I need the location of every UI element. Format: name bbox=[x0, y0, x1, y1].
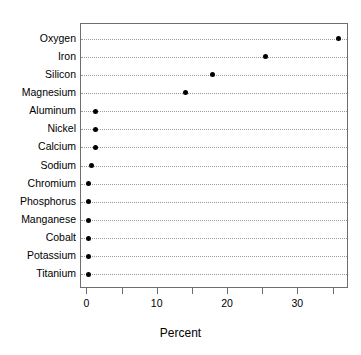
category-label: Calcium bbox=[38, 141, 76, 152]
category-label: Potassium bbox=[27, 250, 76, 261]
gridline bbox=[81, 39, 347, 40]
category-label: Phosphorus bbox=[20, 195, 76, 206]
data-point[interactable] bbox=[210, 72, 215, 77]
gridline bbox=[81, 57, 347, 58]
data-point[interactable] bbox=[183, 90, 188, 95]
x-tick-label: 10 bbox=[151, 297, 163, 309]
gridline bbox=[81, 202, 347, 203]
data-point[interactable] bbox=[86, 236, 91, 241]
x-tick-minor bbox=[122, 288, 123, 294]
gridline bbox=[81, 274, 347, 275]
x-tick-label: 0 bbox=[83, 297, 89, 309]
category-label: Magnesium bbox=[22, 86, 76, 97]
x-tick-label: 20 bbox=[221, 297, 233, 309]
x-tick-major bbox=[297, 288, 298, 294]
plot-area bbox=[80, 23, 348, 288]
gridline bbox=[81, 256, 347, 257]
x-axis: 0102030 bbox=[80, 288, 348, 328]
data-point[interactable] bbox=[263, 54, 268, 59]
category-label: Nickel bbox=[47, 123, 76, 134]
category-label: Iron bbox=[58, 50, 76, 61]
data-point[interactable] bbox=[93, 145, 98, 150]
data-point[interactable] bbox=[86, 199, 91, 204]
x-tick-minor bbox=[262, 288, 263, 294]
x-tick-label: 30 bbox=[292, 297, 304, 309]
category-label: Titanium bbox=[36, 268, 76, 279]
data-point[interactable] bbox=[86, 272, 91, 277]
category-label: Aluminum bbox=[29, 105, 76, 116]
gridline bbox=[81, 111, 347, 112]
data-point[interactable] bbox=[336, 36, 341, 41]
data-point[interactable] bbox=[93, 109, 98, 114]
x-tick-minor bbox=[192, 288, 193, 294]
x-tick-major bbox=[157, 288, 158, 294]
category-label: Chromium bbox=[28, 177, 76, 188]
gridline bbox=[81, 238, 347, 239]
data-point[interactable] bbox=[93, 127, 98, 132]
data-point[interactable] bbox=[86, 254, 91, 259]
x-axis-title: Percent bbox=[0, 326, 361, 340]
data-point[interactable] bbox=[89, 163, 94, 168]
gridline bbox=[81, 147, 347, 148]
gridline bbox=[81, 93, 347, 94]
category-label: Manganese bbox=[21, 214, 76, 225]
category-label: Sodium bbox=[40, 159, 76, 170]
x-tick-major bbox=[227, 288, 228, 294]
category-label: Silicon bbox=[45, 68, 76, 79]
category-label: Oxygen bbox=[40, 32, 76, 43]
gridline bbox=[81, 166, 347, 167]
data-point[interactable] bbox=[86, 181, 91, 186]
data-point[interactable] bbox=[86, 218, 91, 223]
plot-inner bbox=[81, 24, 347, 287]
gridline bbox=[81, 129, 347, 130]
x-tick-major bbox=[86, 288, 87, 294]
gridline bbox=[81, 220, 347, 221]
dot-plot-figure: OxygenIronSiliconMagnesiumAluminumNickel… bbox=[0, 0, 361, 355]
category-label: Cobalt bbox=[46, 232, 76, 243]
x-tick-minor bbox=[333, 288, 334, 294]
gridline bbox=[81, 184, 347, 185]
